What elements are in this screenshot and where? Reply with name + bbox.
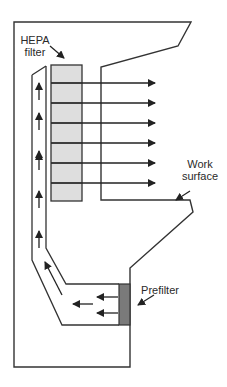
hepa-callout-arrow [50, 46, 64, 58]
hepa-filter-label: HEPA filter [20, 34, 50, 58]
work-label-line2: surface [178, 170, 222, 182]
prefilter-label-text: Prefilter [138, 284, 182, 296]
duct-diagonal-arrow [45, 262, 62, 295]
prefilter-label: Prefilter [138, 284, 182, 296]
hepa-label-line1: HEPA [20, 34, 50, 46]
diagram-canvas [0, 0, 227, 387]
laminar-flow-hood-diagram: HEPA filter Work surface Prefilter [0, 0, 227, 387]
work-surface-callout-arrow [176, 191, 190, 200]
prefilter [119, 284, 130, 325]
prefilter-callout-arrow [138, 295, 154, 305]
hepa-filter [51, 65, 82, 201]
hepa-label-line2: filter [20, 46, 50, 58]
work-surface-label: Work surface [178, 158, 222, 182]
work-label-line1: Work [178, 158, 222, 170]
cabinet-outline [14, 22, 193, 367]
prefilter-intake-arrows [73, 297, 118, 313]
